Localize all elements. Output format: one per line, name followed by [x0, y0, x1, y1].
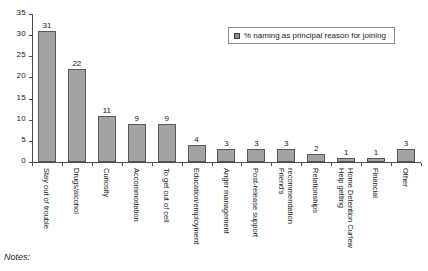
- bar: 31: [38, 31, 56, 162]
- x-axis-category-label: Accommodation: [131, 168, 140, 222]
- x-axis-category-label: Curiosity: [101, 168, 110, 197]
- x-axis-category-label: Financial: [371, 168, 380, 198]
- bar-group: 9: [152, 14, 182, 162]
- bar-value-label: 4: [194, 135, 198, 144]
- x-axis-tick-mark: [271, 163, 272, 166]
- bar-value-label: 31: [43, 21, 52, 30]
- x-axis-category-label: Help getting: [337, 168, 346, 208]
- x-axis-category-label: Anger management: [221, 168, 230, 234]
- y-axis-tick-label: 15: [17, 93, 27, 102]
- bar: 1: [367, 158, 385, 162]
- bar-group: 4: [182, 14, 212, 162]
- y-axis-tick-label: 5: [21, 135, 26, 144]
- x-axis-tick-mark: [212, 163, 213, 166]
- x-axis-category-label: To get out of cell: [161, 168, 170, 223]
- bar: 9: [158, 124, 176, 162]
- bar-value-label: 3: [224, 139, 228, 148]
- bar-value-label: 1: [374, 148, 378, 157]
- y-axis-tick-label: 20: [17, 71, 27, 80]
- legend-label: % naming as principal reason for joining: [244, 31, 386, 40]
- x-axis-category-label: Relationships: [311, 168, 320, 213]
- bar: 11: [98, 116, 116, 163]
- bar: 3: [277, 149, 295, 162]
- x-axis-category-label: Home Detention Curfew: [345, 168, 354, 248]
- x-axis-tick-mark: [361, 163, 362, 166]
- bar: 1: [337, 158, 355, 162]
- legend-swatch-icon: [234, 33, 240, 39]
- bar-group: 3: [391, 14, 421, 162]
- x-axis-category-label: Friend's: [277, 168, 286, 194]
- bar-group: 22: [62, 14, 92, 162]
- x-axis-category-label: Drugs/alcohol: [71, 168, 80, 214]
- x-axis-tick-mark: [32, 163, 33, 166]
- x-axis-tick-mark: [92, 163, 93, 166]
- x-axis-category-label: recommendation: [285, 168, 294, 224]
- bar-value-label: 3: [254, 139, 258, 148]
- y-axis-tick-label: 0: [21, 156, 26, 165]
- x-axis-tick-mark: [182, 163, 183, 166]
- bar: 9: [128, 124, 146, 162]
- x-axis-category-label: Stay out of trouble: [41, 168, 50, 229]
- bar-value-label: 1: [344, 148, 348, 157]
- bar: 4: [188, 145, 206, 162]
- bar-value-label: 22: [72, 59, 81, 68]
- x-axis-line: [32, 162, 421, 163]
- bar: 3: [217, 149, 235, 162]
- bar-value-label: 9: [134, 114, 138, 123]
- chart-figure: 05101520253035 3122119943332113 Stay out…: [0, 0, 428, 271]
- bar-group: 11: [92, 14, 122, 162]
- x-axis-category-label: Other: [401, 168, 410, 187]
- bar-value-label: 3: [404, 139, 408, 148]
- x-axis-tick-mark: [62, 163, 63, 166]
- x-axis-tick-mark: [152, 163, 153, 166]
- bar-value-label: 9: [164, 114, 168, 123]
- bar-group: 9: [122, 14, 152, 162]
- notes-label: Notes:: [4, 252, 30, 262]
- x-axis-tick-mark: [301, 163, 302, 166]
- y-axis-tick-label: 35: [17, 8, 27, 17]
- x-axis-tick-mark: [122, 163, 123, 166]
- bar-value-label: 3: [284, 139, 288, 148]
- bar: 3: [247, 149, 265, 162]
- bar-group: 31: [32, 14, 62, 162]
- chart-legend: % naming as principal reason for joining: [228, 27, 395, 44]
- x-axis-tick-mark: [421, 163, 422, 166]
- x-axis-category-label: Post-release support: [251, 168, 260, 237]
- y-axis-tick-label: 30: [17, 29, 27, 38]
- bar: 2: [307, 154, 325, 162]
- x-axis-tick-mark: [331, 163, 332, 166]
- x-axis-tick-mark: [391, 163, 392, 166]
- bar: 22: [68, 69, 86, 162]
- x-axis-category-label: Education/employment: [191, 168, 200, 244]
- y-axis-tick-label: 25: [17, 50, 27, 59]
- y-axis-tick-label: 10: [17, 114, 27, 123]
- bar-value-label: 11: [103, 106, 111, 115]
- x-axis-tick-mark: [241, 163, 242, 166]
- bar: 3: [397, 149, 415, 162]
- bar-value-label: 2: [314, 144, 318, 153]
